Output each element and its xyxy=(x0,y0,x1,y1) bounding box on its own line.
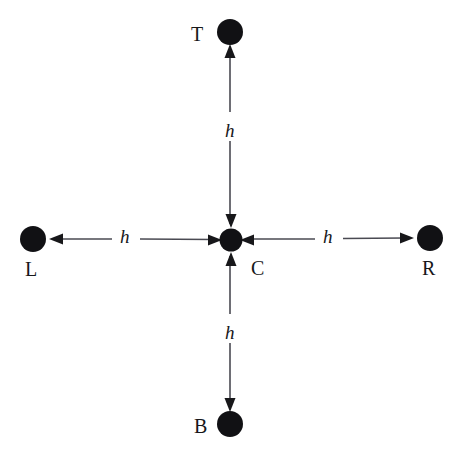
node-left[interactable] xyxy=(20,226,46,252)
node-label-right: R xyxy=(422,258,435,278)
arrowhead-up-to-center xyxy=(226,252,237,266)
stencil-canvas xyxy=(0,0,460,458)
edge-center-right-shaft-outer xyxy=(343,238,405,239)
node-bottom[interactable] xyxy=(217,411,243,437)
spacing-label-bottom: h xyxy=(220,322,240,343)
spacing-label-right: h xyxy=(318,226,338,247)
node-label-bottom: B xyxy=(194,416,207,436)
node-label-top: T xyxy=(191,24,203,44)
spacing-label-top: h xyxy=(220,120,240,141)
arrowhead-left-to-left xyxy=(49,234,63,245)
arrowhead-up-to-top xyxy=(225,44,236,58)
node-right[interactable] xyxy=(417,225,443,251)
node-label-center: C xyxy=(251,258,264,278)
spacing-label-left: h xyxy=(115,226,135,247)
node-label-left: L xyxy=(25,259,37,279)
arrowhead-down-to-bottom xyxy=(225,398,236,412)
node-center[interactable] xyxy=(220,229,243,252)
node-top[interactable] xyxy=(217,19,243,45)
arrowhead-down-to-center xyxy=(226,214,237,228)
stencil-diagram: T L C R B h h h h xyxy=(0,0,460,458)
edge-center-left xyxy=(49,234,222,246)
edge-center-left-shaft-inner xyxy=(140,239,214,240)
arrowhead-right-to-right xyxy=(400,233,414,244)
